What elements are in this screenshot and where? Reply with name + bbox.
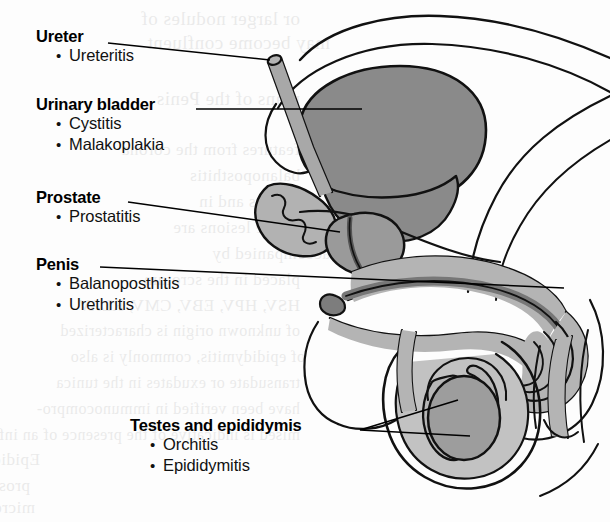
label-item-text: Epididymitis [163,456,250,474]
label-item-text: Cystitis [69,114,121,132]
label-item-epididymitis: •Epididymitis [150,455,302,476]
label-group-prostate: Prostate •Prostatitis [36,189,140,227]
label-group-testes-epididymis: Testes and epididymis •Orchitis •Epididy… [130,417,302,477]
bullet-icon: • [56,274,69,293]
label-header-prostate: Prostate [36,189,140,206]
bullet-icon: • [56,295,69,314]
label-item-balanoposthitis: •Balanoposthitis [56,273,179,294]
label-item-malakoplakia: •Malakoplakia [56,134,164,155]
bullet-icon: • [56,207,69,226]
label-item-prostatitis: •Prostatitis [56,206,140,227]
label-item-orchitis: •Orchitis [150,434,302,455]
label-group-penis: Penis •Balanoposthitis •Urethritis [36,256,179,316]
label-group-urinary-bladder: Urinary bladder •Cystitis •Malakoplakia [36,96,164,156]
bullet-icon: • [150,435,163,454]
bullet-icon: • [56,114,69,133]
label-item-cystitis: •Cystitis [56,113,164,134]
bullet-icon: • [56,46,69,65]
label-item-text: Orchitis [163,435,218,453]
label-item-text: Urethritis [69,295,134,313]
label-header-testes-epididymis: Testes and epididymis [130,417,302,434]
label-item-urethritis: •Urethritis [56,294,179,315]
label-item-text: Prostatitis [69,207,140,225]
label-header-ureter: Ureter [36,28,134,45]
label-item-text: Balanoposthitis [69,274,179,292]
bullet-icon: • [56,135,69,154]
label-group-ureter: Ureter •Ureteritis [36,28,134,66]
male-genitourinary-infections-figure: or larger nodules ofmay become confluent… [0,0,610,522]
label-header-penis: Penis [36,256,179,273]
label-item-text: Ureteritis [69,46,134,64]
bullet-icon: • [150,456,163,475]
label-item-text: Malakoplakia [69,135,164,153]
label-item-ureteritis: •Ureteritis [56,45,134,66]
label-header-urinary-bladder: Urinary bladder [36,96,164,113]
